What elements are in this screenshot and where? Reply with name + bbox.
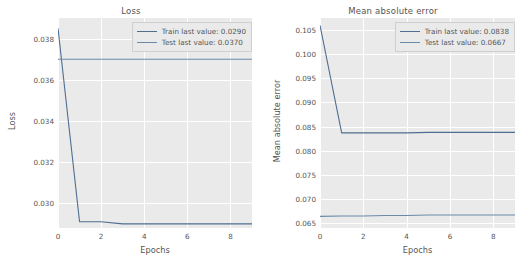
x-tick-label: 8	[217, 232, 243, 241]
legend-label-train-mae: Train last value: 0.0838	[425, 27, 509, 36]
panel-mae: Mean absolute error 0.0650.0700.0750.080…	[262, 0, 524, 277]
y-tick-label: 0.030	[2, 199, 54, 208]
y-tick-label: 0.100	[264, 50, 316, 59]
y-tick-label: 0.065	[264, 219, 316, 228]
legend-label-test-mae: Test last value: 0.0667	[425, 38, 506, 47]
x-tick-label: 4	[131, 232, 157, 241]
x-tick-label: 2	[88, 232, 114, 241]
x-tick-label: 0	[45, 232, 71, 241]
line-swatch-icon	[137, 42, 157, 43]
y-axis-label-loss: Loss	[7, 71, 17, 171]
x-tick-label: 8	[480, 232, 506, 241]
y-tick-label: 0.070	[264, 195, 316, 204]
x-axis-ticks-mae: 02468	[320, 232, 515, 244]
x-tick-label: 2	[350, 232, 376, 241]
test-line	[320, 215, 515, 216]
x-axis-label-mae: Epochs	[320, 245, 515, 255]
chart-title-mae: Mean absolute error	[262, 6, 524, 16]
legend-loss: Train last value: 0.0290 Test last value…	[132, 22, 252, 52]
legend-item-train-loss: Train last value: 0.0290	[137, 26, 246, 37]
legend-item-test-loss: Test last value: 0.0370	[137, 37, 246, 48]
line-swatch-icon	[137, 31, 157, 32]
x-tick-label: 4	[394, 232, 420, 241]
legend-mae: Train last value: 0.0838 Test last value…	[395, 22, 515, 52]
y-tick-label: 0.105	[264, 26, 316, 35]
panel-loss: Loss 0.0300.0320.0340.0360.038 02468 Epo…	[0, 0, 262, 277]
y-axis-label-mae: Mean absolute error	[272, 61, 282, 181]
x-axis-ticks-loss: 02468	[58, 232, 252, 244]
x-tick-label: 6	[437, 232, 463, 241]
chart-title-loss: Loss	[0, 6, 262, 16]
x-tick-label: 6	[174, 232, 200, 241]
legend-item-test-mae: Test last value: 0.0667	[400, 37, 509, 48]
line-swatch-icon	[400, 42, 420, 43]
legend-label-train-loss: Train last value: 0.0290	[162, 27, 246, 36]
x-tick-label: 0	[307, 232, 333, 241]
line-swatch-icon	[400, 31, 420, 32]
x-axis-label-loss: Epochs	[58, 245, 252, 255]
train-line	[58, 28, 252, 224]
y-axis-ticks-mae: 0.0650.0700.0750.0800.0850.0900.0950.100…	[262, 18, 316, 228]
legend-item-train-mae: Train last value: 0.0838	[400, 26, 509, 37]
y-tick-label: 0.038	[2, 34, 54, 43]
legend-label-test-loss: Test last value: 0.0370	[162, 38, 243, 47]
figure: Loss 0.0300.0320.0340.0360.038 02468 Epo…	[0, 0, 525, 277]
